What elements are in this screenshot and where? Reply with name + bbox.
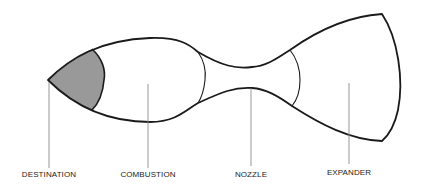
expander-label: EXPANDER	[327, 168, 371, 177]
engine-diagram	[0, 0, 423, 186]
combustion-nozzle-divider	[198, 52, 205, 103]
nozzle-label: NOZZLE	[235, 170, 267, 179]
destination-label: DESTINATION	[22, 170, 76, 179]
combustion-label: COMBUSTION	[120, 170, 175, 179]
nozzle-expander-divider	[290, 50, 300, 106]
